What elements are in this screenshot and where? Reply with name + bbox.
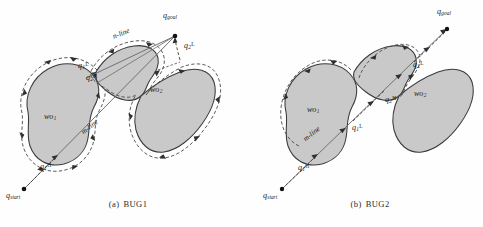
bug2-label-q-goal: qgoal	[437, 8, 451, 16]
bug2-label-q1-hit: q1H	[298, 164, 309, 173]
bug2-caption-index: (b)	[351, 199, 362, 209]
bug-algorithms-figure: qgoal qstart q1H q1L q2H q2L wo1 wo2 n-l…	[0, 0, 483, 227]
bug1-label-q2-hit: q2H	[86, 74, 97, 83]
bug2-label-q2-leave: q2L	[413, 61, 424, 70]
bug1-label-wo1: wo1	[44, 113, 56, 121]
panel-bug2: qgoal qstart q1H q1L q2H q2L wo1 wo2 m-l…	[242, 0, 483, 227]
bug1-label-q1-leave: q1L	[78, 62, 89, 71]
bug2-label-q2-hit: q2H	[385, 96, 396, 105]
bug2-caption-label: BUG2	[366, 199, 390, 209]
bug1-label-wo2: wo2	[150, 86, 162, 94]
bug2-label-wo1: wo1	[307, 106, 319, 114]
bug1-caption: (a)BUG1	[0, 189, 241, 219]
bug1-label-q2-leave: q2L	[184, 42, 195, 51]
bug1-label-q1-hit: q1H	[40, 163, 51, 172]
bug1-q-goal-dot	[173, 34, 178, 39]
bug2-label-q1-leave: q1L	[352, 124, 363, 133]
bug1-caption-label: BUG1	[124, 199, 148, 209]
bug2-segment-q2l-to-goal	[414, 31, 446, 62]
obstacle-wo1-shape	[285, 64, 357, 165]
bug2-caption: (b)BUG2	[242, 189, 483, 219]
bug2-q-goal-dot	[445, 27, 449, 31]
bug2-label-wo2: wo2	[414, 90, 426, 98]
panel-bug1: qgoal qstart q1H q1L q2H q2L wo1 wo2 n-l…	[0, 0, 241, 227]
bug1-caption-index: (a)	[109, 199, 120, 209]
bug1-label-q-goal: qgoal	[163, 12, 177, 20]
bug1-q2l-connector	[158, 62, 180, 70]
